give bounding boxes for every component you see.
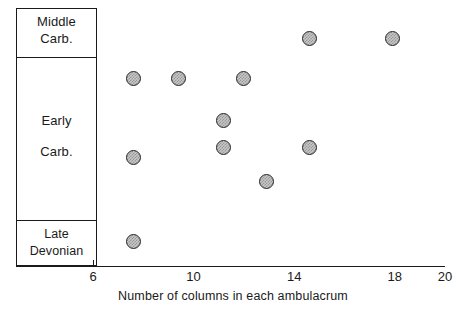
strat-label-middle-carb-line1: Middle bbox=[16, 13, 97, 30]
data-point-marker bbox=[171, 71, 186, 86]
strat-divider-early-late bbox=[16, 220, 97, 221]
x-axis-line bbox=[16, 266, 445, 267]
strat-label-middle-carb-line2: Carb. bbox=[16, 30, 97, 47]
strat-cell-early-carb: Early Carb. bbox=[16, 112, 97, 172]
x-tick-label: 14 bbox=[287, 269, 301, 284]
data-point-marker bbox=[126, 71, 141, 86]
strat-divider-middle-early bbox=[16, 57, 97, 58]
data-point-marker bbox=[302, 31, 317, 46]
strat-label-early-carb-line2: Carb. bbox=[16, 143, 97, 160]
strat-label-late-devonian-line1: Late bbox=[16, 226, 97, 243]
x-tick-label: 20 bbox=[438, 269, 452, 284]
data-point-marker bbox=[302, 140, 317, 155]
data-point-marker bbox=[216, 140, 231, 155]
data-point-marker bbox=[126, 234, 141, 249]
data-point-marker bbox=[126, 150, 141, 165]
x-axis-title: Number of columns in each ambulacrum bbox=[0, 288, 466, 304]
x-tick-label: 10 bbox=[186, 269, 200, 284]
strat-cell-late-devonian: Late Devonian bbox=[16, 226, 97, 266]
data-point-marker bbox=[385, 31, 400, 46]
strat-cell-middle-carb: Middle Carb. bbox=[16, 13, 97, 57]
x-tick-mark bbox=[93, 260, 94, 267]
scatter-chart-figure: Middle Carb. Early Carb. Late Devonian 6… bbox=[0, 0, 466, 310]
strat-label-early-carb-line1: Early bbox=[16, 112, 97, 129]
data-point-marker bbox=[216, 113, 231, 128]
data-point-marker bbox=[259, 174, 274, 189]
x-tick-label: 18 bbox=[387, 269, 401, 284]
data-point-marker bbox=[236, 71, 251, 86]
x-tick-label: 6 bbox=[89, 269, 96, 284]
strat-label-late-devonian-line2: Devonian bbox=[16, 243, 97, 260]
